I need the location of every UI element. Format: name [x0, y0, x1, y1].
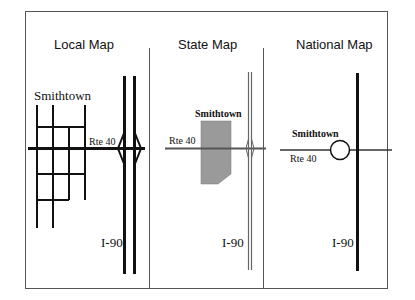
state-map-panel: State Map Smithtown Rte 40 I-90 — [165, 37, 266, 270]
street-grid — [37, 105, 85, 228]
national-town-marker — [331, 141, 350, 160]
national-highway-label: I-90 — [332, 235, 354, 250]
local-map-title: Local Map — [54, 37, 114, 52]
state-town-label: Smithtown — [195, 108, 242, 119]
state-town-area — [201, 121, 231, 184]
national-road-label: Rte 40 — [290, 153, 316, 164]
state-road-label: Rte 40 — [169, 135, 195, 146]
local-road-label: Rte 40 — [89, 136, 115, 147]
national-map-panel: National Map Smithtown Rte 40 I-90 — [280, 37, 392, 271]
map-scale-diagram: Local Map Smithtown Rte 40 I-90 State Ma… — [0, 0, 415, 300]
local-map-panel: Local Map Smithtown Rte 40 I-90 — [28, 37, 145, 274]
state-highway-label: I-90 — [222, 235, 244, 250]
national-town-label: Smithtown — [292, 128, 339, 139]
state-map-title: State Map — [178, 37, 237, 52]
national-map-title: National Map — [296, 37, 373, 52]
local-town-label: Smithtown — [34, 88, 92, 103]
local-highway-label: I-90 — [101, 235, 123, 250]
